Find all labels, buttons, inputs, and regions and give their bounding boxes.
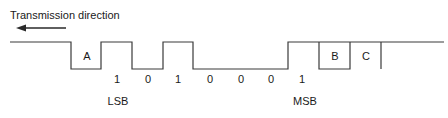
segment-label-b: B bbox=[331, 51, 338, 62]
lsb-label: LSB bbox=[108, 96, 129, 107]
transmission-direction-title: Transmission direction bbox=[10, 10, 120, 21]
transmission-direction-arrow-icon bbox=[16, 25, 66, 32]
bit-label-2: 1 bbox=[175, 74, 181, 85]
bit-label-5: 0 bbox=[268, 74, 274, 85]
segment-label-a: A bbox=[83, 51, 90, 62]
bit-label-4: 0 bbox=[238, 74, 244, 85]
segment-label-c: C bbox=[362, 51, 370, 62]
bit-label-3: 0 bbox=[207, 74, 213, 85]
signal-waveform bbox=[10, 42, 444, 69]
bit-label-1: 0 bbox=[145, 74, 151, 85]
bit-label-6: 1 bbox=[299, 74, 305, 85]
bit-label-0: 1 bbox=[114, 74, 120, 85]
msb-label: MSB bbox=[293, 96, 317, 107]
